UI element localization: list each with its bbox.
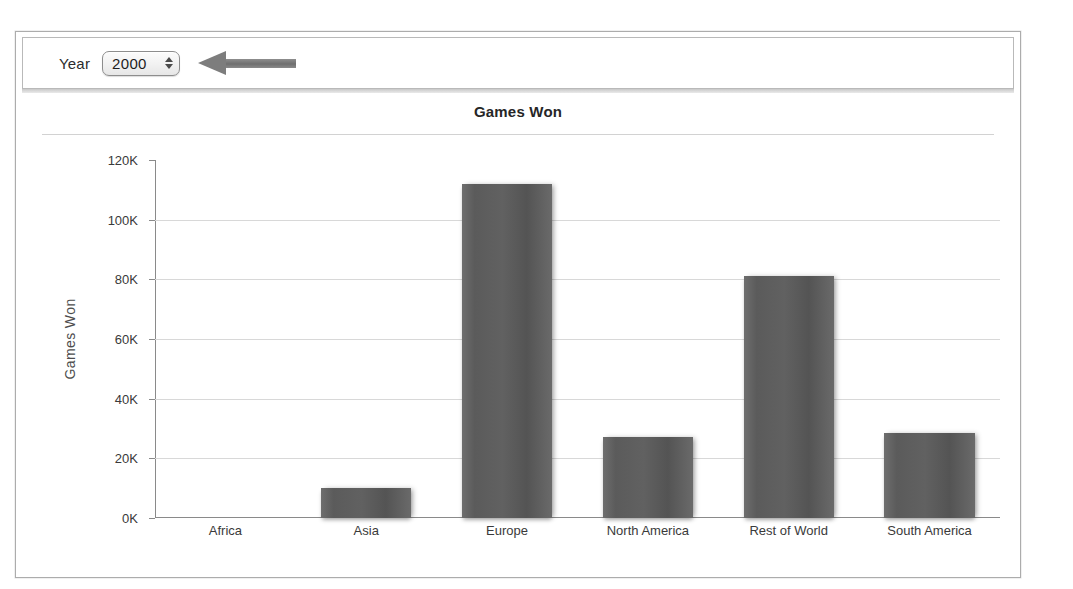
arrow-shaft [224, 59, 296, 68]
year-label: Year [59, 55, 90, 72]
y-axis-title: Games Won [60, 160, 80, 518]
triangle-down-icon[interactable] [165, 64, 173, 69]
x-axis-tick-label: North America [577, 523, 718, 538]
y-axis-tick-label: 20K [115, 451, 138, 466]
bar-slot: Europe [437, 160, 578, 518]
year-stepper-value: 2000 [112, 55, 154, 72]
arrow-head [198, 51, 226, 75]
bar[interactable] [462, 184, 552, 518]
bar-slot: Asia [296, 160, 437, 518]
y-axis-tick-label: 80K [115, 272, 138, 287]
y-axis-tick: 0K [149, 518, 155, 519]
year-stepper[interactable]: 2000 [102, 51, 180, 76]
x-axis-tick-label: Asia [296, 523, 437, 538]
x-axis-tick-label: Rest of World [718, 523, 859, 538]
chart-title: Games Won [16, 103, 1020, 120]
bar-slot: Africa [155, 160, 296, 518]
bar-series: AfricaAsiaEuropeNorth AmericaRest of Wor… [155, 160, 1000, 518]
bar-slot: Rest of World [718, 160, 859, 518]
year-stepper-arrows[interactable] [164, 57, 173, 69]
bar[interactable] [321, 488, 411, 518]
bar-slot: South America [859, 160, 1000, 518]
toolbar-divider [22, 89, 1014, 93]
bar[interactable] [884, 433, 974, 518]
chart-window-panel: Year 2000 Games Won Games Won 0K20K40K60… [15, 31, 1021, 578]
y-axis-tick-label: 0K [122, 511, 138, 526]
y-axis-tick-label: 100K [108, 212, 138, 227]
left-arrow-annotation-icon [198, 51, 296, 75]
plot-area: 0K20K40K60K80K100K120K AfricaAsiaEuropeN… [155, 160, 1000, 518]
x-axis-tick-label: Africa [155, 523, 296, 538]
top-text-bleed [0, 0, 1073, 14]
chart-area: Games Won Games Won 0K20K40K60K80K100K12… [16, 94, 1020, 577]
toolbar: Year 2000 [22, 37, 1014, 89]
y-axis-tick-label: 40K [115, 391, 138, 406]
bar-slot: North America [577, 160, 718, 518]
x-axis-tick-label: South America [859, 523, 1000, 538]
y-axis-tick-label: 120K [108, 153, 138, 168]
y-axis-title-text: Games Won [62, 298, 78, 379]
title-divider [42, 134, 994, 135]
bar[interactable] [744, 276, 834, 518]
triangle-up-icon[interactable] [165, 57, 173, 62]
bar[interactable] [603, 437, 693, 518]
y-axis-tick-label: 60K [115, 332, 138, 347]
x-axis-tick-label: Europe [437, 523, 578, 538]
